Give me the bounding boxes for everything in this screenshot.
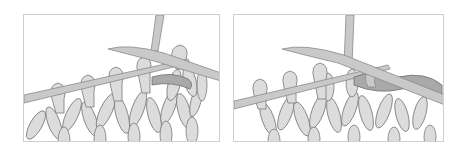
working-yarn-strand [151, 15, 164, 51]
knitting-step-2-panel [233, 14, 444, 142]
knitting-step-1-panel [23, 14, 220, 142]
knitting-illustration-step-2 [234, 15, 444, 142]
knitting-illustration-step-1 [24, 15, 220, 142]
